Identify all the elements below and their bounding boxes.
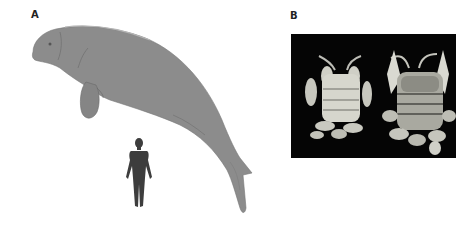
specimen-left <box>305 56 372 139</box>
specimen-right <box>382 50 456 155</box>
panel-label-b: B <box>290 10 298 21</box>
panel-b-photograph <box>291 34 456 158</box>
human-silhouette-scale <box>126 138 152 207</box>
panel-a-illustration <box>0 0 270 238</box>
